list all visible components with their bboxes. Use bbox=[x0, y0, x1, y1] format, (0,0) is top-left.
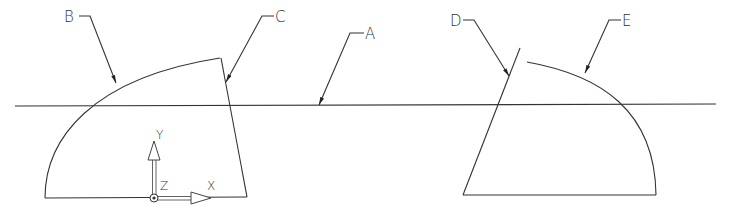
label-b: B bbox=[64, 8, 74, 26]
right-shape bbox=[463, 48, 656, 195]
line-a[interactable] bbox=[15, 104, 716, 106]
cad-drawing: B C A D E Y X Z bbox=[0, 0, 732, 214]
ucs-y-axis bbox=[153, 159, 157, 197]
leader-d: D bbox=[450, 12, 509, 76]
arc-b[interactable] bbox=[45, 58, 220, 198]
ucs-x-label: X bbox=[207, 179, 215, 193]
leader-e: E bbox=[585, 12, 631, 73]
edge-d[interactable] bbox=[463, 48, 520, 195]
ucs-icon: Y X Z bbox=[148, 128, 215, 204]
arc-e[interactable] bbox=[527, 62, 656, 195]
label-c: C bbox=[275, 8, 285, 26]
label-d: D bbox=[450, 12, 462, 30]
left-shape-bottom[interactable] bbox=[45, 197, 247, 198]
label-e: E bbox=[622, 12, 631, 30]
ucs-z-label: Z bbox=[160, 179, 168, 193]
ucs-x-arrow-icon bbox=[191, 192, 211, 204]
ucs-y-arrow-icon bbox=[148, 141, 160, 160]
ucs-origin-dot bbox=[152, 196, 155, 199]
leader-b: B bbox=[64, 8, 116, 83]
ucs-x-axis bbox=[157, 197, 192, 201]
drawing-canvas: B C A D E Y X Z bbox=[0, 0, 732, 214]
label-a: A bbox=[365, 25, 375, 43]
left-shape bbox=[45, 58, 247, 198]
leader-c: C bbox=[226, 8, 285, 82]
leader-a: A bbox=[319, 25, 375, 105]
edge-c[interactable] bbox=[221, 58, 247, 197]
ucs-y-label: Y bbox=[156, 128, 164, 142]
